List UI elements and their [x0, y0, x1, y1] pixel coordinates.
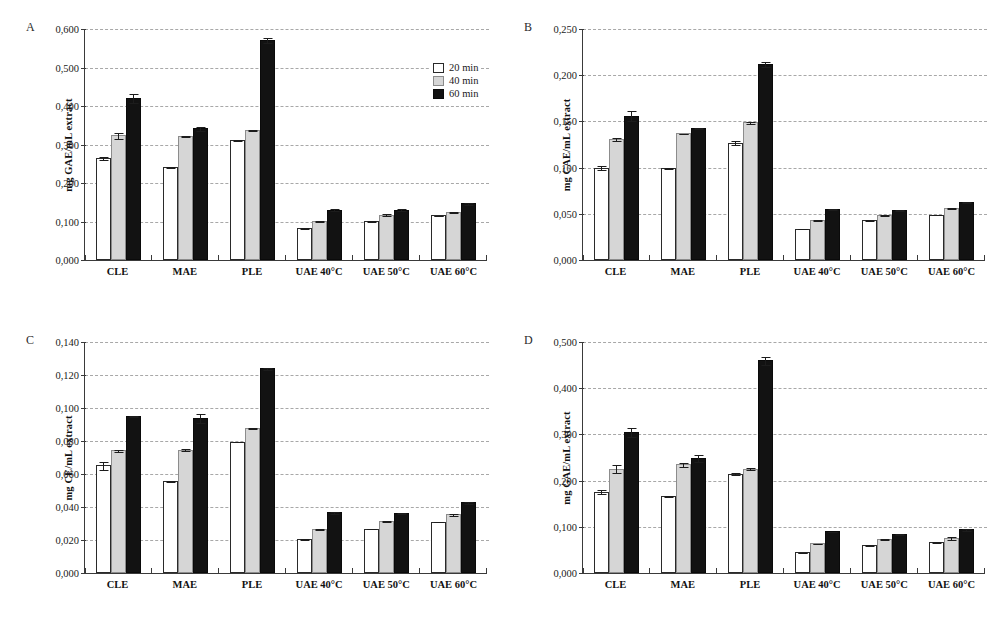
error-bar	[196, 127, 205, 132]
bar[interactable]	[892, 534, 907, 573]
bar[interactable]	[394, 210, 409, 260]
bar[interactable]	[661, 496, 676, 573]
bar[interactable]	[446, 212, 461, 260]
error-bar	[464, 203, 473, 205]
bar[interactable]	[959, 529, 974, 573]
bar[interactable]	[676, 464, 691, 573]
error-bar	[798, 553, 807, 555]
bar[interactable]	[461, 502, 476, 573]
bar[interactable]	[297, 539, 312, 573]
bar[interactable]	[825, 209, 840, 260]
bar[interactable]	[944, 208, 959, 260]
y-axis-tick-label: 0,080	[55, 436, 79, 447]
legend-swatch-icon	[433, 89, 444, 99]
bar[interactable]	[230, 140, 245, 260]
y-axis-tick-label: 0,300	[553, 429, 577, 440]
bar[interactable]	[111, 450, 126, 573]
error-bar	[248, 428, 257, 431]
bar[interactable]	[312, 221, 327, 260]
bar[interactable]	[245, 130, 260, 260]
bar[interactable]	[758, 64, 773, 260]
bar[interactable]	[743, 469, 758, 573]
bar[interactable]	[327, 210, 342, 260]
bar[interactable]	[379, 521, 394, 573]
bar[interactable]	[364, 529, 379, 573]
bar[interactable]	[193, 128, 208, 260]
bar[interactable]	[877, 215, 892, 260]
y-axis-tick-label: 0,000	[553, 568, 577, 579]
bar[interactable]	[260, 368, 275, 573]
bar[interactable]	[126, 416, 141, 573]
legend-item[interactable]: 40 min	[433, 74, 478, 87]
bar[interactable]	[795, 229, 810, 260]
bar[interactable]	[877, 539, 892, 573]
bar[interactable]	[825, 531, 840, 573]
bar[interactable]	[810, 543, 825, 573]
y-axis-tick-label: 0,020	[55, 535, 79, 546]
bar[interactable]	[178, 450, 193, 573]
bar-group	[784, 29, 851, 260]
bar[interactable]	[245, 428, 260, 573]
bar[interactable]	[929, 215, 944, 260]
bar[interactable]	[929, 542, 944, 573]
bar[interactable]	[111, 135, 126, 260]
bar[interactable]	[126, 98, 141, 260]
bar[interactable]	[446, 514, 461, 573]
error-bar	[895, 534, 904, 536]
bar[interactable]	[795, 552, 810, 573]
x-axis-tick-label: UAE 60°C	[420, 579, 487, 590]
bar[interactable]	[178, 136, 193, 260]
bar[interactable]	[728, 143, 743, 260]
bar[interactable]	[959, 202, 974, 260]
bar[interactable]	[728, 474, 743, 573]
legend-item[interactable]: 20 min	[433, 61, 478, 74]
error-bar	[315, 529, 324, 531]
bar[interactable]	[96, 158, 111, 260]
bar[interactable]	[163, 167, 178, 260]
bar[interactable]	[892, 210, 907, 260]
bar[interactable]	[594, 168, 609, 260]
x-axis-tick-label: MAE	[151, 266, 218, 277]
bar[interactable]	[260, 40, 275, 260]
bar[interactable]	[862, 545, 877, 573]
bar[interactable]	[193, 418, 208, 573]
bar[interactable]	[297, 228, 312, 260]
bar[interactable]	[691, 128, 706, 260]
bar[interactable]	[810, 220, 825, 260]
bar[interactable]	[364, 221, 379, 260]
bar[interactable]	[594, 492, 609, 573]
bar[interactable]	[96, 465, 111, 573]
error-bar	[597, 490, 606, 495]
bar[interactable]	[624, 432, 639, 573]
bar[interactable]	[379, 215, 394, 260]
bar[interactable]	[609, 139, 624, 260]
bar[interactable]	[431, 522, 446, 573]
bar[interactable]	[944, 538, 959, 573]
bar[interactable]	[676, 133, 691, 260]
error-bar	[99, 157, 108, 160]
bar[interactable]	[230, 442, 245, 574]
bar[interactable]	[163, 481, 178, 573]
bar[interactable]	[394, 513, 409, 573]
y-axis-tick-label: 0,400	[553, 383, 577, 394]
x-axis-tick-label: UAE 40°C	[286, 579, 353, 590]
error-bar	[761, 62, 770, 68]
bar[interactable]	[461, 203, 476, 260]
error-bar	[679, 134, 688, 135]
error-bar	[315, 221, 324, 223]
bar[interactable]	[624, 116, 639, 260]
bar[interactable]	[862, 220, 877, 260]
bar[interactable]	[691, 458, 706, 573]
x-axis-tick-label: CLE	[582, 266, 649, 277]
bar[interactable]	[758, 360, 773, 573]
legend-item[interactable]: 60 min	[433, 87, 478, 100]
bar[interactable]	[312, 529, 327, 573]
bar[interactable]	[661, 168, 676, 260]
legend-label: 60 min	[449, 88, 478, 99]
bar[interactable]	[743, 122, 758, 260]
bar[interactable]	[609, 469, 624, 573]
bar[interactable]	[327, 512, 342, 573]
bar[interactable]	[431, 215, 446, 260]
error-bar	[947, 208, 956, 210]
x-axis-tick-label: MAE	[649, 266, 716, 277]
